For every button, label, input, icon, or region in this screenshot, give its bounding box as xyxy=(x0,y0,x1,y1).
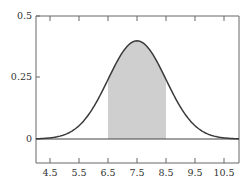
x-tick-label: 10.5 xyxy=(213,167,234,178)
x-tick-label: 4.5 xyxy=(42,167,57,178)
x-tick-label: 9.5 xyxy=(187,167,202,178)
y-tick-label-0: 0 xyxy=(26,133,32,144)
y-tick-label-0.5: 0.5 xyxy=(17,10,32,21)
x-tick-label: 7.5 xyxy=(129,167,144,178)
shaded-probability-region xyxy=(108,41,166,139)
y-tick-label-0.25: 0.25 xyxy=(11,71,32,82)
x-tick-label: 8.5 xyxy=(158,167,173,178)
x-tick-label: 6.5 xyxy=(100,167,115,178)
normal-distribution-chart: 0.5 0.25 0 4.55.56.57.58.59.510.5 xyxy=(0,0,251,178)
x-tick-label: 5.5 xyxy=(71,167,86,178)
